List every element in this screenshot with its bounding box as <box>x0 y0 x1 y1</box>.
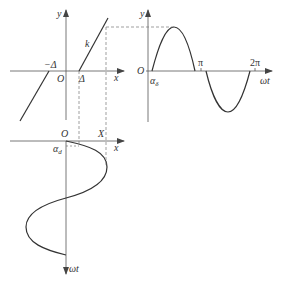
output-waveform-negative <box>206 71 250 112</box>
out-y-label: y <box>139 8 145 19</box>
in-origin-label: O <box>61 128 68 139</box>
in-x-label: x <box>113 142 119 153</box>
input-waveform <box>26 141 107 255</box>
char-line-negative <box>20 71 49 121</box>
in-phase-label: αd <box>53 143 62 156</box>
two-pi-label: 2π <box>250 57 260 68</box>
char-line-positive <box>79 18 108 71</box>
char-neg-threshold-label: −Δ <box>44 59 57 70</box>
projection-lines <box>79 27 174 167</box>
characteristic-plot: y x O −Δ Δ k <box>10 8 124 121</box>
out-origin-label: O <box>137 65 144 76</box>
char-y-label: y <box>56 8 62 19</box>
output-waveform <box>152 27 195 71</box>
input-plot: O X x αd ωt <box>10 128 124 274</box>
char-origin-label: O <box>57 73 64 84</box>
char-slope-label: k <box>85 38 90 49</box>
in-time-label: ωt <box>69 263 79 274</box>
dead-zone-diagram: y x O −Δ Δ k y O π 2π ωt αδ O X x αd ωt <box>0 0 284 283</box>
in-amplitude-label: X <box>97 128 105 139</box>
output-plot: y O π 2π ωt αδ <box>137 8 272 122</box>
out-x-label: ωt <box>260 75 270 86</box>
char-x-label: x <box>113 72 119 83</box>
out-phase-label: αδ <box>150 75 159 88</box>
pi-label: π <box>198 57 203 68</box>
